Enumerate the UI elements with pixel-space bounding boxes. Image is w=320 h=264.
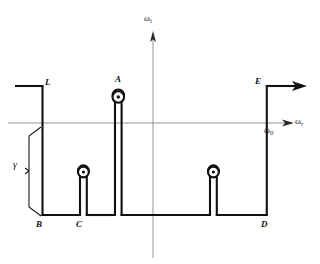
- contour-label-L: L: [45, 78, 51, 87]
- contour-label-E: E: [255, 77, 261, 86]
- imaginary-axis-label: ωi: [144, 14, 152, 24]
- real-axis-label: ωr: [295, 117, 303, 127]
- imaginary-axis-label-subscript: i: [150, 17, 152, 24]
- omega-zero-label: ω0: [264, 126, 273, 136]
- contour-label-A: A: [115, 75, 121, 84]
- contour-label-B: B: [36, 220, 42, 229]
- real-axis-label-subscript: r: [301, 120, 304, 127]
- pole-marker-right: [208, 167, 219, 178]
- gamma-bracket-label: γ: [13, 160, 17, 170]
- gamma-bracket-tick: [25, 168, 29, 174]
- contour-path-group: [15, 85, 296, 216]
- axis-group: [8, 31, 294, 258]
- gamma-bracket: [25, 127, 41, 216]
- contour-slit-A: [112, 89, 124, 216]
- contour-label-C: C: [76, 220, 82, 229]
- contour-diagram-figure: L A B C D E γ ωi ωr ω0: [0, 0, 320, 264]
- contour-label-D: D: [261, 220, 268, 229]
- omega-zero-label-subscript: 0: [270, 129, 273, 136]
- pole-marker-C: [78, 167, 89, 178]
- pole-marker-A: [113, 91, 125, 103]
- gamma-bracket-outline: [29, 127, 41, 216]
- pole-markers-group: [78, 91, 219, 177]
